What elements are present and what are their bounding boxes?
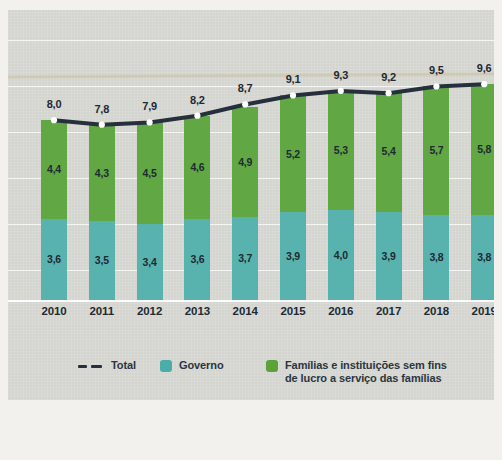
x-axis-tick-labels: 2010201120122013201420152016201720182019 [8,302,494,324]
chart-page: 4,43,64,33,54,53,44,63,64,93,75,23,95,34… [0,0,502,460]
legend-label-familias: Famílias e instituições sem fins de lucr… [285,359,447,385]
chart-legend: Total Governo Famílias e instituições se… [8,355,494,397]
total-line-marker [147,119,153,125]
total-line-marker [338,88,344,94]
total-value-label: 9,5 [416,64,456,76]
total-value-label: 8,2 [177,94,217,106]
x-axis-label-2016: 2016 [318,305,364,317]
dashed-line-icon [78,360,104,372]
total-value-label: 7,9 [130,100,170,112]
chart-panel: 4,43,64,33,54,53,44,63,64,93,75,23,95,34… [8,10,494,400]
total-value-label: 9,1 [273,73,313,85]
total-value-label: 9,3 [321,69,361,81]
x-axis-label-2019: 2019 [461,305,494,317]
total-value-label: 8,0 [34,98,74,110]
legend-item-governo[interactable]: Governo [160,359,224,372]
legend-label-total: Total [111,359,136,372]
total-line-marker [242,101,248,107]
total-line-marker [433,83,439,89]
x-axis-label-2017: 2017 [366,305,412,317]
x-axis-label-2011: 2011 [79,305,125,317]
total-line-marker [481,81,487,87]
teal-swatch-icon [160,360,172,372]
total-line-marker [194,113,200,119]
x-axis-label-2014: 2014 [222,305,268,317]
x-axis-label-2015: 2015 [270,305,316,317]
x-axis-label-2012: 2012 [127,305,173,317]
plot-area: 4,43,64,33,54,53,44,63,64,93,75,23,95,34… [8,10,494,300]
total-value-label: 9,6 [464,62,494,74]
total-line-marker [386,90,392,96]
green-swatch-icon [266,360,278,372]
total-line-marker [290,92,296,98]
x-axis-label-2010: 2010 [31,305,77,317]
legend-item-familias[interactable]: Famílias e instituições sem fins de lucr… [266,359,447,385]
total-value-label: 9,2 [369,71,409,83]
total-line-marker [51,117,57,123]
total-line-series [8,10,494,300]
total-line-marker [99,122,105,128]
total-value-label: 8,7 [225,82,265,94]
total-value-label: 7,8 [82,103,122,115]
footer: Fonte: Conta-Satélite de Saúde - 2019 AG… [0,402,502,460]
x-axis-label-2018: 2018 [413,305,459,317]
legend-label-governo: Governo [179,359,224,372]
legend-item-total[interactable]: Total [78,359,136,372]
x-axis-label-2013: 2013 [174,305,220,317]
